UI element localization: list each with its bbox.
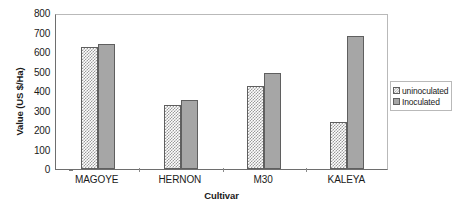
y-axis-tick-labels: 0100200300400500600700800 [17,14,50,170]
legend-swatch-icon [393,87,400,94]
y-tick-label: 500 [17,68,50,78]
category-group [164,15,198,169]
x-tick-label-magoye: MAGOYE [55,174,138,186]
bar-magoye-inoculated [98,44,115,169]
y-tick-label: 400 [17,87,50,97]
bar-m30-inoculated [264,73,281,169]
x-tick-mark [306,168,307,172]
y-tick-mark [69,170,73,171]
y-tick-label: 200 [17,126,50,136]
bars-layer [56,15,387,169]
y-tick-label: 300 [17,107,50,117]
category-group [330,15,364,169]
chart-legend: uninoculatedInoculated [390,81,452,111]
x-tick-mark [223,168,224,172]
category-group [81,15,115,169]
legend-entry[interactable]: Inoculated [393,96,448,107]
bar-m30-uninoculated [247,86,264,169]
plot-area [55,14,388,170]
x-tick-label-kaleya: KALEYA [305,174,388,186]
category-group [247,15,281,169]
x-tick-mark [139,168,140,172]
y-tick-label: 0 [17,165,50,175]
bar-kaleya-inoculated [347,36,364,169]
legend-label: uninoculated [402,86,448,96]
bar-hernon-uninoculated [164,105,181,169]
bar-chart: Value (US $/Ha) 010020030040050060070080… [0,0,474,221]
y-tick-label: 800 [17,9,50,19]
y-tick-label: 700 [17,29,50,39]
x-axis-title: Cultivar [55,190,388,201]
bar-magoye-uninoculated [81,47,98,169]
bar-hernon-inoculated [181,100,198,169]
x-axis-tick-labels: MAGOYEHERNONM30KALEYA [55,174,388,188]
y-tick-label: 100 [17,146,50,156]
x-tick-label-hernon: HERNON [138,174,221,186]
bar-kaleya-uninoculated [330,122,347,169]
x-tick-label-m30: M30 [222,174,305,186]
legend-label: Inoculated [402,97,440,107]
y-tick-label: 600 [17,48,50,58]
legend-swatch-icon [393,98,400,105]
legend-entry[interactable]: uninoculated [393,85,448,96]
